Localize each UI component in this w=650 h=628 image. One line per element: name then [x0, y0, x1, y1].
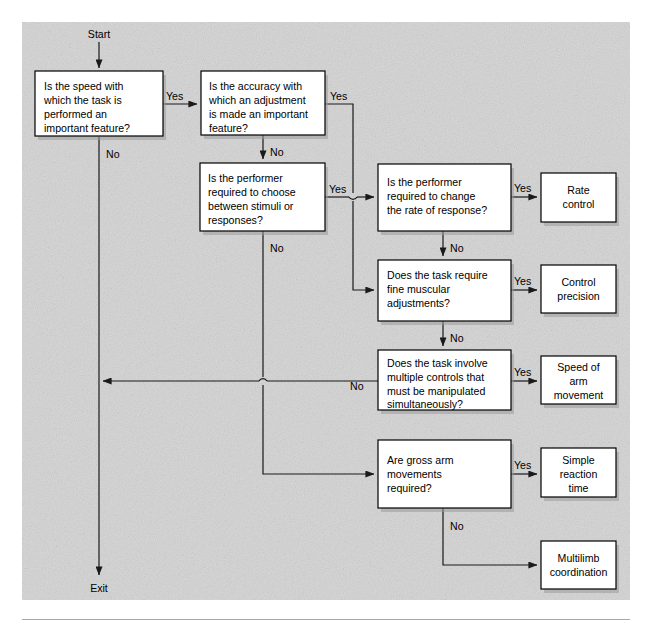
outcome-control-precision-line-2: precision	[557, 290, 600, 302]
start-label: Start	[88, 28, 110, 40]
edge-label-gross-yes: Yes	[514, 459, 531, 471]
outcome-speed-arm-line-2: arm	[569, 375, 587, 387]
decision-multiple-line-1: Does the task involve	[387, 357, 488, 369]
decision-node-accuracy[interactable]: Is the accuracy with which an adjustment…	[201, 71, 328, 139]
outcome-speed-arm-line-3: movement	[554, 389, 604, 401]
footer-rule	[22, 619, 630, 620]
edge-label-multiple-yes: Yes	[514, 366, 531, 378]
edge-label-rate-no: No	[450, 242, 464, 254]
decision-node-speed[interactable]: Is the speed with which the task is perf…	[35, 71, 166, 140]
decision-multiple-line-3: must be manipulated	[387, 385, 485, 397]
exit-label: Exit	[90, 582, 108, 594]
outcome-simple-rt-line-2: reaction	[560, 468, 598, 480]
decision-choose-line-4: responses?	[208, 214, 263, 226]
outcome-multilimb-line-2: coordination	[550, 566, 608, 578]
flowchart-figure: Is the speed with which the task is perf…	[0, 0, 650, 628]
outcome-rate-control-line-1: Rate	[567, 184, 589, 196]
outcome-node-simple-reaction-time[interactable]: Simple reaction time	[541, 448, 619, 501]
decision-node-rate[interactable]: Is the performer required to change the …	[378, 164, 514, 235]
outcome-node-rate-control[interactable]: Rate control	[541, 173, 619, 226]
decision-rate-line-3: the rate of response?	[387, 204, 487, 216]
edge-label-gross-no: No	[450, 520, 464, 532]
outcome-simple-rt-line-3: time	[568, 482, 588, 494]
outcome-simple-rt-line-1: Simple	[562, 454, 594, 466]
decision-choose-line-2: required to choose	[208, 186, 296, 198]
flowchart-canvas: Is the speed with which the task is perf…	[0, 0, 650, 628]
decision-node-choose[interactable]: Is the performer required to choose betw…	[200, 163, 328, 235]
decision-speed-line-1: Is the speed with	[44, 80, 124, 92]
outcome-node-control-precision[interactable]: Control precision	[541, 265, 619, 317]
outcome-rate-control-line-2: control	[563, 198, 595, 210]
decision-choose-line-3: between stimuli or	[208, 200, 294, 212]
decision-gross-line-3: required?	[387, 482, 432, 494]
outcome-multilimb-line-1: Multilimb	[558, 552, 600, 564]
outcome-node-multilimb-coordination[interactable]: Multilimb coordination	[541, 541, 619, 593]
decision-node-multiple[interactable]: Does the task involve multiple controls …	[378, 350, 514, 414]
outcome-speed-arm-line-1: Speed of	[557, 361, 599, 373]
edge-label-rate-yes: Yes	[514, 182, 531, 194]
decision-gross-line-1: Are gross arm	[387, 454, 454, 466]
decision-fine-line-3: adjustments?	[387, 297, 450, 309]
decision-speed-line-3: performed an	[44, 108, 107, 120]
outcome-node-speed-of-arm-movement[interactable]: Speed of arm movement	[541, 356, 619, 408]
decision-accuracy-line-2: which an adjustment	[208, 94, 306, 106]
decision-rate-line-2: required to change	[387, 190, 475, 202]
decision-accuracy-line-4: feature?	[209, 122, 248, 134]
edge-label-accuracy-no: No	[270, 146, 284, 158]
edge-label-choose-yes: Yes	[329, 183, 346, 195]
decision-speed-line-2: which the task is	[43, 94, 122, 106]
decision-fine-line-1: Does the task require	[387, 269, 488, 281]
decision-node-fine[interactable]: Does the task require fine muscular adju…	[378, 260, 514, 325]
decision-multiple-line-2: multiple controls that	[387, 371, 484, 383]
decision-gross-line-2: movements	[387, 468, 442, 480]
edge-label-speed-no: No	[106, 148, 120, 160]
edge-label-accuracy-yes: Yes	[330, 90, 347, 102]
decision-rate-line-1: Is the performer	[387, 176, 462, 188]
edge-label-choose-no: No	[270, 242, 284, 254]
outcome-control-precision-line-1: Control	[561, 276, 595, 288]
edge-label-multiple-no: No	[350, 380, 364, 392]
decision-accuracy-line-1: Is the accuracy with	[209, 80, 302, 92]
decision-accuracy-line-3: is made an important	[209, 108, 308, 120]
edge-label-fine-no: No	[450, 332, 464, 344]
decision-fine-line-2: fine muscular	[387, 283, 450, 295]
decision-choose-line-1: Is the performer	[208, 172, 283, 184]
decision-node-gross[interactable]: Are gross arm movements required?	[378, 440, 514, 512]
edge-label-speed-yes: Yes	[166, 90, 183, 102]
edge-label-fine-yes: Yes	[514, 275, 531, 287]
decision-multiple-line-4: simultaneously?	[387, 398, 463, 410]
decision-speed-line-4: important feature?	[44, 122, 130, 134]
